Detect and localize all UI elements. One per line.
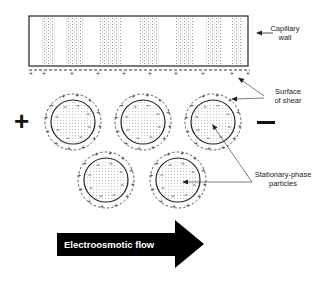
capillary-wall [29, 16, 248, 66]
particle: ++++++++++++ [149, 150, 206, 210]
svg-text:+: + [172, 203, 176, 210]
svg-text:+: + [203, 181, 207, 188]
anode-sign: + [14, 106, 29, 136]
svg-text:+: + [77, 172, 81, 179]
svg-text:+: + [201, 70, 205, 77]
svg-text:+: + [98, 123, 102, 130]
svg-text:+: + [194, 140, 198, 147]
electroosmotic-flow-diagram: ++++++++++ +++++++++++++++++++++++++++++… [0, 0, 326, 283]
svg-text:+: + [238, 123, 242, 130]
svg-text:+: + [230, 70, 234, 77]
svg-text:+: + [120, 102, 124, 109]
svg-text:+: + [124, 140, 128, 147]
svg-text:+: + [87, 198, 91, 205]
svg-text:+: + [61, 93, 65, 100]
svg-text:+: + [180, 150, 184, 157]
svg-text:+: + [96, 70, 100, 77]
cathode-sign [257, 121, 275, 124]
svg-text:Stationary-phase: Stationary-phase [255, 170, 312, 179]
svg-text:+: + [162, 135, 166, 142]
svg-text:+: + [166, 109, 170, 116]
svg-text:+: + [131, 181, 135, 188]
svg-text:+: + [207, 145, 211, 152]
svg-text:+: + [88, 97, 92, 104]
svg-text:+: + [50, 102, 54, 109]
particle: ++++++++++++ [77, 150, 134, 210]
svg-text:+: + [232, 135, 236, 142]
svg-text:+: + [221, 144, 225, 151]
svg-text:+: + [190, 102, 194, 109]
svg-text:+: + [197, 193, 201, 200]
svg-text:+: + [42, 70, 46, 77]
svg-text:particles: particles [269, 179, 297, 188]
svg-text:wall: wall [278, 33, 292, 42]
svg-text:+: + [215, 92, 219, 99]
svg-text:Electroosmotic flow: Electroosmotic flow [64, 239, 155, 250]
svg-text:+: + [151, 144, 155, 151]
svg-text:+: + [166, 151, 170, 158]
svg-text:+: + [114, 202, 118, 209]
svg-text:+: + [125, 193, 129, 200]
electroosmotic-flow-arrow: Electroosmotic flow [57, 220, 204, 268]
svg-text:+: + [158, 97, 162, 104]
svg-text:+: + [168, 123, 172, 130]
svg-text:+: + [67, 145, 71, 152]
svg-text:+: + [100, 203, 104, 210]
svg-text:+: + [116, 128, 120, 135]
svg-text:+: + [159, 198, 163, 205]
svg-text:+: + [92, 135, 96, 142]
svg-text:+: + [246, 70, 250, 77]
svg-text:+: + [186, 202, 190, 209]
label-surface-of-shear: Surface of shear [231, 78, 302, 106]
svg-text:+: + [96, 109, 100, 116]
svg-text:of shear: of shear [274, 96, 302, 105]
svg-text:+: + [83, 160, 87, 167]
svg-text:+: + [44, 114, 48, 121]
svg-text:+: + [114, 114, 118, 121]
svg-text:+: + [129, 167, 133, 174]
svg-text:+: + [122, 70, 126, 77]
svg-text:+: + [186, 128, 190, 135]
svg-text:+: + [201, 167, 205, 174]
svg-text:+: + [54, 140, 58, 147]
svg-text:+: + [137, 145, 141, 152]
svg-text:+: + [145, 92, 149, 99]
svg-text:+: + [174, 70, 178, 77]
svg-text:+: + [81, 144, 85, 151]
particle: ++++++++++++ [114, 92, 171, 152]
svg-text:+: + [148, 70, 152, 77]
wall-positive-charges: ++++++++++ [29, 70, 250, 77]
particle: ++++++++++++ [44, 92, 101, 152]
svg-text:+: + [149, 172, 153, 179]
svg-text:+: + [46, 128, 50, 135]
svg-text:+: + [201, 93, 205, 100]
svg-text:+: + [70, 70, 74, 77]
svg-text:+: + [228, 97, 232, 104]
svg-text:+: + [75, 92, 79, 99]
svg-text:+: + [236, 109, 240, 116]
stationary-phase-particles: ++++++++++++++++++++++++++++++++++++++++… [44, 92, 241, 210]
svg-text:+: + [94, 151, 98, 158]
particle: ++++++++++++ [184, 92, 241, 152]
svg-text:+: + [184, 114, 188, 121]
svg-text:Capillary: Capillary [270, 24, 299, 33]
svg-text:+: + [151, 186, 155, 193]
svg-text:+: + [155, 160, 159, 167]
svg-text:+: + [121, 155, 125, 162]
svg-text:+: + [79, 186, 83, 193]
svg-text:+: + [108, 150, 112, 157]
svg-text:+: + [29, 70, 33, 77]
svg-text:+: + [193, 155, 197, 162]
label-capillary-wall: Capillary wall [256, 24, 300, 42]
svg-text:Surface: Surface [275, 87, 301, 96]
svg-text:+: + [131, 93, 135, 100]
